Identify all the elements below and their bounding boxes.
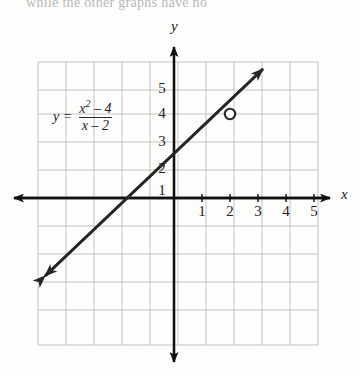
x-axis-label: x	[341, 186, 348, 203]
y-tick-label-1: 1	[154, 182, 170, 199]
equation-annotation: y = x2 – 4 x – 2	[53, 99, 114, 134]
equation-fraction: x2 – 4 x – 2	[76, 99, 114, 134]
y-tick-label-3: 3	[154, 133, 170, 150]
y-tick-label-5: 5	[154, 80, 170, 97]
x-tick-label-4: 4	[278, 203, 294, 220]
graph-figure	[0, 0, 360, 376]
y-tick-label-4: 4	[154, 105, 170, 122]
x-tick-label-3: 3	[250, 203, 266, 220]
open-circle-hole	[225, 109, 235, 119]
y-tick-label-2: 2	[154, 160, 170, 177]
numerator-rest: – 4	[94, 101, 112, 116]
x-tick-label-1: 1	[194, 203, 210, 220]
equation-lhs: y =	[53, 109, 72, 125]
x-tick-label-2: 2	[222, 203, 238, 220]
equation-denominator: x – 2	[79, 117, 112, 134]
x-tick-label-5: 5	[306, 203, 322, 220]
numerator-exponent: 2	[85, 98, 90, 109]
equation-numerator: x2 – 4	[76, 99, 114, 117]
y-axis-label: y	[171, 18, 178, 35]
